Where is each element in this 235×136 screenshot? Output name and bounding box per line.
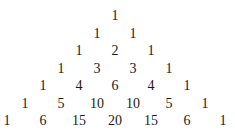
triangle-cell: 1 [184,79,191,93]
triangle-cell: 1 [112,9,119,23]
triangle-cell: 1 [76,44,83,58]
triangle-cell: 1 [202,97,209,111]
triangle-cell: 6 [184,114,191,128]
triangle-cell: 4 [76,79,83,93]
triangle-cell: 3 [130,62,137,76]
triangle-cell: 1 [148,44,155,58]
triangle-cell: 1 [22,97,29,111]
triangle-cell: 1 [4,114,11,128]
triangle-cell: 1 [94,27,101,41]
triangle-cell: 6 [40,114,47,128]
triangle-cell: 4 [148,79,155,93]
triangle-cell: 6 [112,79,119,93]
triangle-cell: 5 [58,97,65,111]
triangle-cell: 10 [126,97,140,111]
triangle-cell: 10 [90,97,104,111]
triangle-cell: 1 [58,62,65,76]
triangle-cell: 3 [94,62,101,76]
triangle-cell: 1 [166,62,173,76]
pascals-triangle: 111121133114641151010511615201561 [0,0,235,136]
triangle-cell: 5 [166,97,173,111]
triangle-cell: 15 [144,114,158,128]
triangle-cell: 2 [112,44,119,58]
triangle-cell: 15 [72,114,86,128]
triangle-cell: 20 [108,114,122,128]
triangle-cell: 1 [40,79,47,93]
triangle-cell: 1 [130,27,137,41]
triangle-cell: 1 [220,114,227,128]
